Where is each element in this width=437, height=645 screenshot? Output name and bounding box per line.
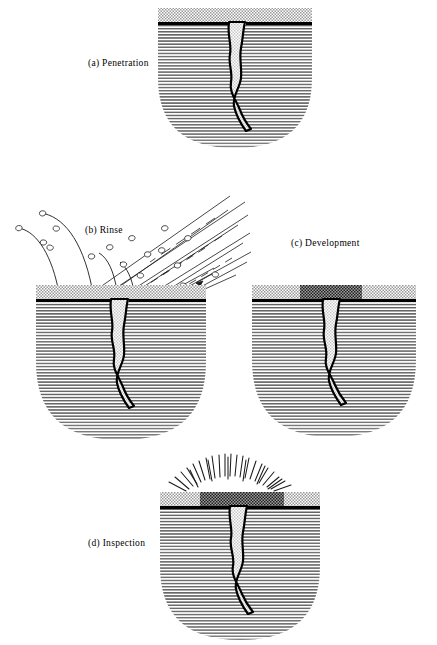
rinse-droplet-pointer [196, 273, 214, 286]
indication-band-c [300, 285, 362, 299]
panel-label-rinse: (b) Rinse [85, 225, 123, 235]
developer-layer-c [252, 285, 416, 299]
panel-inspection [160, 454, 320, 640]
developer-layer-d [160, 492, 320, 506]
figure-root: (a) Penetration (b) Rinse (c) Developmen… [0, 0, 437, 645]
panel-development [252, 285, 416, 437]
rinse-spray-lines [96, 196, 251, 300]
panel-penetration [158, 8, 312, 148]
inspection-rays [169, 454, 291, 491]
penetrant-inspection-diagram [0, 0, 437, 645]
panel-label-inspection: (d) Inspection [88, 538, 145, 548]
indication-band-d [200, 492, 284, 506]
penetrant-film-layer-a [158, 8, 312, 22]
panel-label-development: (c) Development [291, 238, 360, 248]
panel-rinse [15, 196, 251, 440]
penetrant-film-layer-b [36, 285, 206, 299]
panel-label-penetration: (a) Penetration [88, 58, 149, 68]
